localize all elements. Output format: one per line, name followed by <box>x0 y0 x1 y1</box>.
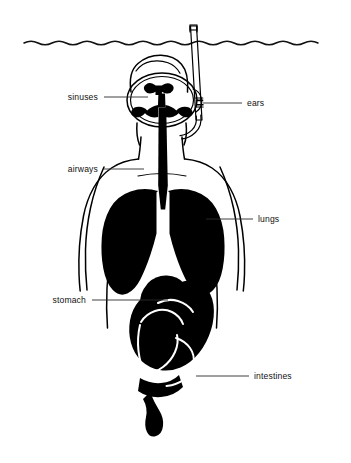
lung-right <box>101 189 158 295</box>
label-airways: airways <box>68 164 98 174</box>
anatomy-diagram: sinuses ears airways lungs stomach intes… <box>0 0 351 463</box>
anatomy-illustration: sinuses ears airways lungs stomach intes… <box>0 0 351 463</box>
label-ears: ears <box>247 98 264 108</box>
water-surface-line <box>24 41 318 45</box>
label-stomach: stomach <box>52 295 86 305</box>
label-lungs: lungs <box>258 214 279 224</box>
label-sinuses: sinuses <box>68 92 98 102</box>
airway-trachea <box>158 108 168 210</box>
label-intestines: intestines <box>254 371 292 381</box>
